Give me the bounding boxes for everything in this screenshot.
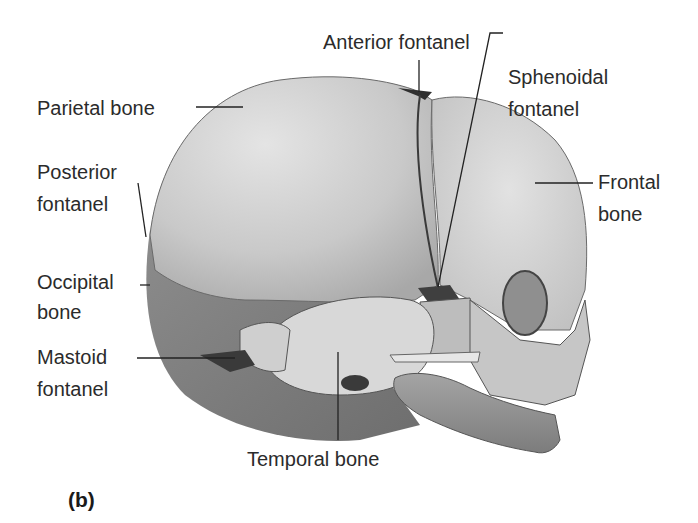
label-frontal-bone-line1: Frontal (598, 170, 660, 194)
label-posterior-fontanel-line2: fontanel (37, 192, 108, 216)
label-frontal-bone-line2: bone (598, 202, 643, 226)
label-anterior-fontanel: Anterior fontanel (323, 30, 470, 54)
label-sphenoidal-fontanel-line1: Sphenoidal (508, 65, 608, 89)
label-temporal-bone: Temporal bone (247, 447, 379, 471)
panel-label: (b) (68, 488, 95, 512)
fetal-skull-figure: Anterior fontanel Parietal bone Sphenoid… (0, 0, 698, 523)
label-occipital-bone-line2: bone (37, 300, 82, 324)
label-posterior-fontanel-line1: Posterior (37, 160, 117, 184)
parietal-bone-shape (150, 77, 438, 302)
label-sphenoidal-fontanel-line2: fontanel (508, 97, 579, 121)
label-parietal-bone: Parietal bone (37, 96, 155, 120)
ear-canal-shape (341, 375, 369, 391)
label-mastoid-fontanel-line1: Mastoid (37, 345, 107, 369)
orbit-shape (503, 271, 547, 335)
label-occipital-bone-line1: Occipital (37, 270, 114, 294)
label-mastoid-fontanel-line2: fontanel (37, 377, 108, 401)
